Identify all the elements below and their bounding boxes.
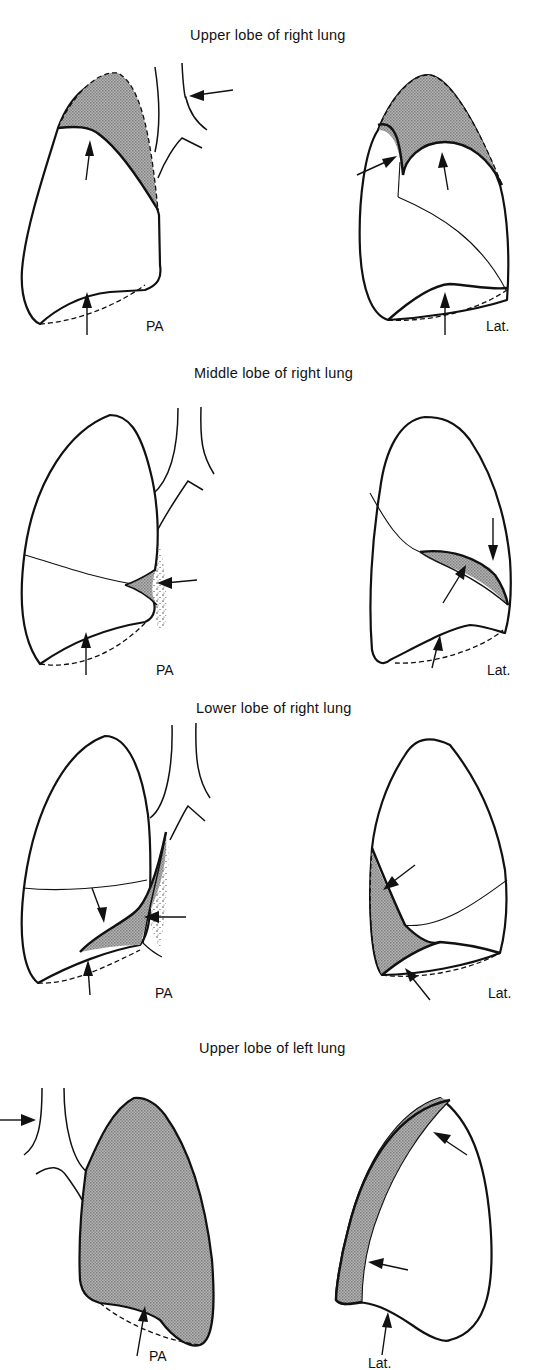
section-title-upper-lobe-right: Upper lobe of right lung xyxy=(190,27,346,43)
section-title-middle-lobe-right: Middle lobe of right lung xyxy=(194,365,353,381)
section-title-upper-lobe-left: Upper lobe of left lung xyxy=(199,1040,345,1056)
section-1-lat-view xyxy=(357,75,508,335)
section-3-lat-view xyxy=(370,739,507,1000)
section-3-pa-view xyxy=(22,723,210,995)
section-2-pa-view xyxy=(22,407,214,675)
view-label-lat: Lat. xyxy=(488,985,511,1001)
view-label-lat: Lat. xyxy=(486,318,509,334)
view-label-lat: Lat. xyxy=(487,662,510,678)
section-4-lat-view xyxy=(336,1098,492,1355)
section-title-lower-lobe-right: Lower lobe of right lung xyxy=(196,700,352,716)
section-4-pa-view xyxy=(0,1088,214,1356)
section-2-lat-view xyxy=(370,417,511,668)
view-label-pa: PA xyxy=(155,985,173,1001)
lung-lobe-diagram xyxy=(0,0,547,1370)
view-label-lat: Lat. xyxy=(368,1355,391,1370)
view-label-pa: PA xyxy=(156,662,174,678)
view-label-pa: PA xyxy=(149,1348,167,1364)
view-label-pa: PA xyxy=(146,318,164,334)
section-1-pa-view xyxy=(22,63,233,335)
